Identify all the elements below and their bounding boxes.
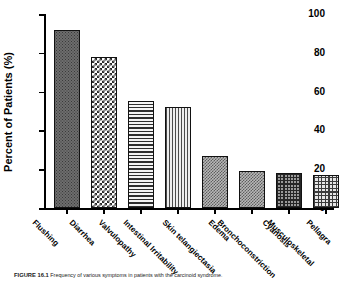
y-axis-line — [44, 14, 46, 210]
x-axis-tick — [288, 210, 290, 214]
y-axis-tick-label: 20 — [314, 164, 325, 174]
bar-valvulopathy — [128, 101, 154, 208]
x-axis-label-flushing: Flushing — [31, 218, 61, 248]
bar-cyanosis — [313, 175, 339, 208]
y-axis-tick-label: 100 — [308, 9, 325, 19]
bar-skin-telangiectasia — [202, 156, 228, 208]
bar-diarrhea — [91, 57, 117, 208]
bar-flushing — [54, 30, 80, 209]
x-axis-tick — [177, 210, 179, 214]
chart-plot-area: 0 20 40 60 80 100 Percent of Patients (%… — [44, 14, 332, 210]
x-axis-tick — [140, 210, 142, 214]
bar-bronchoconstriction — [276, 173, 302, 208]
x-axis-tick — [251, 210, 253, 214]
y-axis-tick — [39, 169, 44, 171]
y-axis-tick — [39, 53, 44, 55]
x-axis-tick — [325, 210, 327, 214]
y-axis-tick — [39, 92, 44, 94]
figure-caption-label: FIGURE 16.1 — [14, 272, 49, 278]
y-axis-tick-label: 40 — [314, 125, 325, 135]
y-axis-tick — [39, 208, 44, 210]
figure-caption: FIGURE 16.1 Frequency of various symptom… — [14, 272, 330, 279]
bar-edema — [239, 171, 265, 208]
x-axis-tick — [66, 210, 68, 214]
x-axis-label-diarrhea: Diarrhea — [68, 218, 97, 247]
y-axis-tick-label: 60 — [314, 87, 325, 97]
x-axis-tick — [103, 210, 105, 214]
x-axis-line — [44, 208, 334, 210]
figure-panel: 0 20 40 60 80 100 Percent of Patients (%… — [0, 0, 341, 284]
x-axis-tick — [214, 210, 216, 214]
y-axis-tick — [39, 14, 44, 16]
y-axis-tick — [39, 130, 44, 132]
y-axis-title: Percent of Patients (%) — [2, 52, 14, 172]
x-axis-label-pellagra: Pellagra — [305, 218, 333, 246]
figure-caption-text: Frequency of various symptoms in patient… — [50, 272, 222, 278]
bar-intestinal-irritability — [165, 107, 191, 208]
y-axis-tick-label: 80 — [314, 48, 325, 58]
